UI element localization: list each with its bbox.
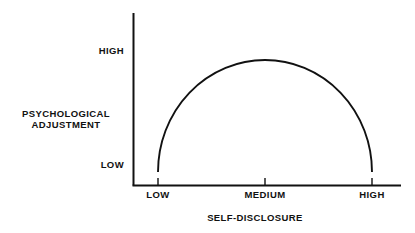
y-axis-title: PSYCHOLOGICALADJUSTMENT (6, 108, 126, 130)
x-axis-title: SELF-DISCLOSURE (155, 212, 355, 223)
x-tick-label-low: LOW (113, 189, 203, 200)
x-tick-label-high: HIGH (327, 189, 415, 200)
y-axis-title-line2: ADJUSTMENT (6, 119, 126, 130)
y-axis-title-line1: PSYCHOLOGICAL (22, 108, 110, 119)
data-curve-inverted-u (158, 60, 372, 172)
x-tick-label-medium: MEDIUM (220, 189, 310, 200)
y-tick-label-low: LOW (72, 159, 124, 170)
y-tick-label-high: HIGH (72, 45, 124, 56)
chart-figure: HIGH LOW PSYCHOLOGICALADJUSTMENT LOW MED… (0, 0, 415, 233)
